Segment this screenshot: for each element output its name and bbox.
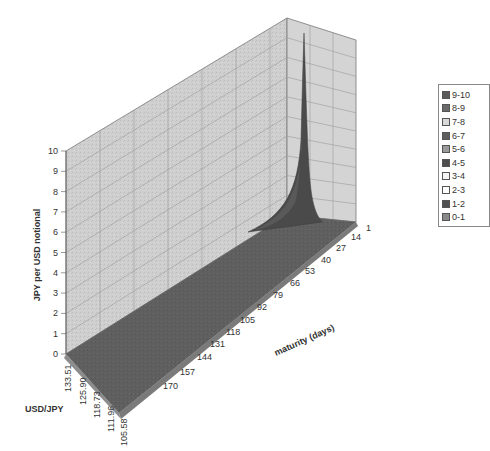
legend-item: 5-6 bbox=[442, 142, 486, 156]
legend-item: 7-8 bbox=[442, 115, 486, 129]
z-tick-label: 7 bbox=[53, 207, 58, 217]
svg-text:170: 170 bbox=[163, 381, 178, 391]
svg-text:157: 157 bbox=[180, 367, 195, 377]
legend-swatch bbox=[442, 104, 450, 112]
legend-swatch bbox=[442, 91, 450, 99]
legend-label: 3-4 bbox=[452, 171, 465, 181]
z-tick-label: 5 bbox=[53, 248, 58, 258]
legend: 9-10 8-9 7-8 6-7 5-6 4-5 3-4 2-3 1-2 0-1 bbox=[438, 84, 490, 227]
z-axis-title: JPY per USD notional bbox=[32, 209, 42, 301]
z-tick-label: 0 bbox=[53, 349, 58, 359]
legend-swatch bbox=[442, 118, 450, 126]
svg-text:53: 53 bbox=[305, 266, 315, 276]
svg-text:144: 144 bbox=[197, 352, 212, 362]
legend-item: 4-5 bbox=[442, 156, 486, 170]
svg-text:105.58: 105.58 bbox=[119, 418, 129, 446]
z-tick-label: 1 bbox=[53, 329, 58, 339]
legend-swatch bbox=[442, 159, 450, 167]
z-tick-label: 6 bbox=[53, 227, 58, 237]
svg-text:14: 14 bbox=[351, 232, 361, 242]
legend-label: 4-5 bbox=[452, 158, 465, 168]
legend-label: 1-2 bbox=[452, 199, 465, 209]
legend-item: 3-4 bbox=[442, 170, 486, 184]
svg-text:133.51: 133.51 bbox=[63, 364, 73, 392]
legend-item: 8-9 bbox=[442, 102, 486, 116]
legend-label: 6-7 bbox=[452, 131, 465, 141]
legend-swatch bbox=[442, 145, 450, 153]
svg-text:1: 1 bbox=[366, 223, 371, 233]
z-tick-label: 2 bbox=[53, 308, 58, 318]
svg-text:111.96: 111.96 bbox=[106, 406, 116, 432]
legend-label: 5-6 bbox=[452, 144, 465, 154]
svg-text:118.73: 118.73 bbox=[92, 391, 102, 418]
legend-swatch bbox=[442, 213, 450, 221]
usdjpy-axis-title: USD/JPY bbox=[25, 404, 64, 414]
legend-item: 6-7 bbox=[442, 129, 486, 143]
legend-swatch bbox=[442, 186, 450, 194]
legend-label: 0-1 bbox=[452, 212, 465, 222]
legend-item: 9-10 bbox=[442, 88, 486, 102]
z-tick-label: 10 bbox=[48, 146, 58, 156]
z-axis-ticks: 0 1 2 3 4 5 6 7 8 9 10 bbox=[48, 146, 66, 359]
legend-item: 1-2 bbox=[442, 197, 486, 211]
z-tick-label: 8 bbox=[53, 187, 58, 197]
legend-swatch bbox=[442, 200, 450, 208]
svg-text:125.90: 125.90 bbox=[78, 377, 88, 405]
z-tick-label: 3 bbox=[53, 288, 58, 298]
svg-text:92: 92 bbox=[257, 302, 267, 312]
svg-text:27: 27 bbox=[336, 243, 346, 253]
svg-text:40: 40 bbox=[321, 255, 331, 265]
legend-swatch bbox=[442, 132, 450, 140]
legend-label: 9-10 bbox=[452, 90, 470, 100]
legend-item: 2-3 bbox=[442, 183, 486, 197]
svg-text:105: 105 bbox=[240, 315, 255, 325]
svg-text:118: 118 bbox=[226, 327, 240, 337]
svg-text:66: 66 bbox=[290, 278, 300, 288]
legend-label: 8-9 bbox=[452, 103, 465, 113]
maturity-axis-title: maturity (days) bbox=[273, 322, 336, 357]
legend-item: 0-1 bbox=[442, 210, 486, 224]
legend-label: 7-8 bbox=[452, 117, 465, 127]
svg-text:79: 79 bbox=[273, 290, 283, 300]
svg-text:131: 131 bbox=[210, 339, 225, 349]
legend-swatch bbox=[442, 172, 450, 180]
z-tick-label: 4 bbox=[53, 268, 58, 278]
z-tick-label: 9 bbox=[53, 166, 58, 176]
legend-label: 2-3 bbox=[452, 185, 465, 195]
